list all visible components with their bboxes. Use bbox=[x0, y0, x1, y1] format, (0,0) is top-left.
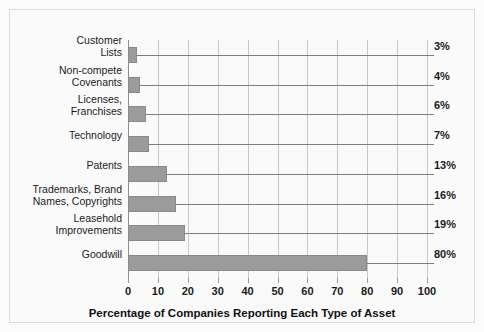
gridline-40 bbox=[248, 40, 249, 278]
category-label-1: CustomerLists bbox=[18, 34, 122, 58]
bar-7 bbox=[128, 225, 185, 241]
value-label-5: 13% bbox=[434, 159, 478, 171]
leader-line-2 bbox=[140, 85, 434, 86]
leader-line-5 bbox=[167, 174, 434, 175]
category-label-4: Technology bbox=[18, 129, 122, 141]
chart-frame: CustomerListsNon-competeCovenantsLicense… bbox=[9, 9, 475, 323]
bar-2 bbox=[128, 77, 140, 93]
leader-line-7 bbox=[185, 233, 434, 234]
bar-4 bbox=[128, 136, 149, 152]
gridline-20 bbox=[188, 40, 189, 278]
category-label-8: Goodwill bbox=[18, 248, 122, 260]
category-label-line: Customer bbox=[18, 34, 122, 46]
category-label-line: Franchises bbox=[18, 105, 122, 117]
gridline-30 bbox=[218, 40, 219, 278]
x-axis-title: Percentage of Companies Reporting Each T… bbox=[10, 307, 474, 319]
tick-30 bbox=[218, 278, 219, 283]
tick-50 bbox=[278, 278, 279, 283]
tick-0 bbox=[128, 278, 129, 283]
bar-8 bbox=[128, 255, 367, 271]
category-label-7: LeaseholdImprovements bbox=[18, 212, 122, 236]
gridline-10 bbox=[158, 40, 159, 278]
leader-line-3 bbox=[146, 114, 434, 115]
gridline-60 bbox=[307, 40, 308, 278]
plot-area: 0102030405060708090100 bbox=[128, 40, 427, 278]
bar-3 bbox=[128, 106, 146, 122]
leader-line-8 bbox=[367, 263, 434, 264]
tick-80 bbox=[367, 278, 368, 283]
gridline-80 bbox=[367, 40, 368, 278]
category-label-line: Non-compete bbox=[18, 64, 122, 76]
category-label-6: Trademarks, BrandNames, Copyrights bbox=[18, 183, 122, 207]
leader-line-6 bbox=[176, 204, 434, 205]
tick-20 bbox=[188, 278, 189, 283]
bar-6 bbox=[128, 196, 176, 212]
category-label-line: Patents bbox=[18, 159, 122, 171]
category-label-line: Lists bbox=[18, 46, 122, 58]
category-label-line: Covenants bbox=[18, 76, 122, 88]
category-label-line: Goodwill bbox=[18, 248, 122, 260]
category-label-line: Names, Copyrights bbox=[18, 195, 122, 207]
tick-10 bbox=[158, 278, 159, 283]
category-label-2: Non-competeCovenants bbox=[18, 64, 122, 88]
category-label-line: Leasehold bbox=[18, 212, 122, 224]
tick-40 bbox=[248, 278, 249, 283]
category-label-line: Licenses, bbox=[18, 93, 122, 105]
leader-line-1 bbox=[137, 55, 434, 56]
value-label-6: 16% bbox=[434, 189, 478, 201]
category-label-line: Trademarks, Brand bbox=[18, 183, 122, 195]
value-label-7: 19% bbox=[434, 218, 478, 230]
value-label-3: 6% bbox=[434, 99, 478, 111]
gridline-90 bbox=[397, 40, 398, 278]
category-label-5: Patents bbox=[18, 159, 122, 171]
bar-5 bbox=[128, 166, 167, 182]
bar-1 bbox=[128, 47, 137, 63]
category-label-line: Improvements bbox=[18, 224, 122, 236]
gridline-70 bbox=[337, 40, 338, 278]
tick-60 bbox=[307, 278, 308, 283]
tick-70 bbox=[337, 278, 338, 283]
tick-90 bbox=[397, 278, 398, 283]
tick-100 bbox=[427, 278, 428, 283]
category-label-line: Technology bbox=[18, 129, 122, 141]
value-label-1: 3% bbox=[434, 40, 478, 52]
gridline-50 bbox=[278, 40, 279, 278]
category-label-3: Licenses,Franchises bbox=[18, 93, 122, 117]
value-label-8: 80% bbox=[434, 248, 478, 260]
leader-line-4 bbox=[149, 144, 434, 145]
value-label-4: 7% bbox=[434, 129, 478, 141]
gridline-100 bbox=[427, 40, 428, 278]
chart-figure: CustomerListsNon-competeCovenantsLicense… bbox=[0, 0, 484, 332]
value-label-2: 4% bbox=[434, 70, 478, 82]
x-tick-label-100: 100 bbox=[407, 285, 447, 297]
